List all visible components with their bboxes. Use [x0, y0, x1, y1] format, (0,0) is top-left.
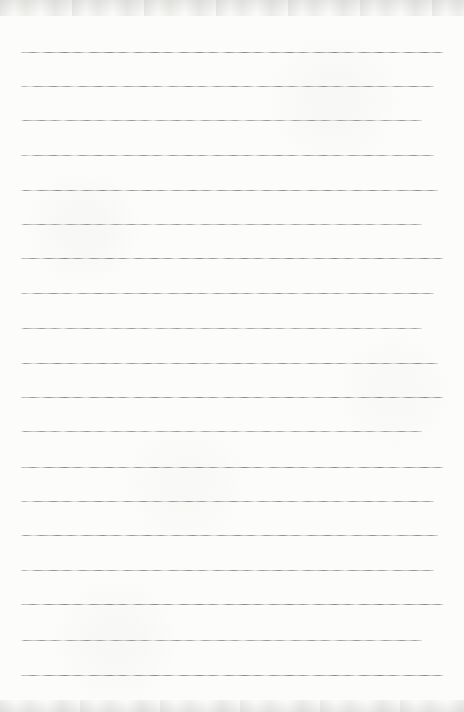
- ruled-line: [20, 466, 445, 468]
- ruled-line: [20, 154, 445, 156]
- ruled-line: [20, 327, 445, 329]
- ruled-line: [20, 85, 445, 87]
- ruled-line: [20, 396, 445, 398]
- ruled-line: [20, 500, 445, 502]
- ruled-line: [20, 603, 445, 605]
- ruled-line: [20, 534, 445, 536]
- ruled-line: [20, 292, 445, 294]
- scan-edge-texture-bottom: [0, 700, 464, 712]
- ruled-line: [20, 362, 445, 364]
- ruled-line: [20, 223, 445, 225]
- paper-sheet: [0, 0, 464, 712]
- ruled-line: [20, 674, 445, 676]
- scan-edge-texture-top: [0, 0, 464, 16]
- ruled-line: [20, 51, 445, 53]
- ruled-line: [20, 569, 445, 571]
- ruled-line: [20, 189, 445, 191]
- ruled-line: [20, 639, 445, 641]
- ruled-line: [20, 119, 445, 121]
- ruled-line: [20, 430, 445, 432]
- ruled-line: [20, 257, 445, 259]
